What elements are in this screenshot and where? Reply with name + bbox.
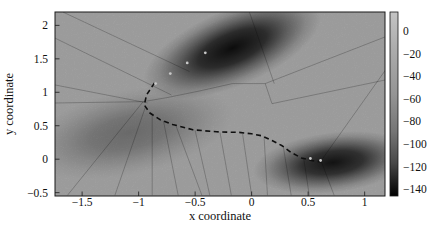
colorbar-tick-label: −100 [403, 138, 427, 150]
colorbar [390, 12, 398, 196]
colorbar-tick-label: −20 [403, 48, 421, 60]
x-tick-label: −0.5 [185, 196, 206, 208]
heatmap-chart: −1.5−1−0.500.51−0.500.511.52 x coordinat… [0, 0, 438, 233]
figure: −1.5−1−0.500.51−0.500.511.52 x coordinat… [0, 0, 438, 233]
y-tick-label: 1 [42, 86, 48, 98]
plot-content [18, 0, 416, 202]
colorbar-tick-label: −40 [403, 70, 421, 82]
x-tick-label: −1 [133, 196, 145, 208]
colorbar-tick-label: −120 [403, 161, 427, 173]
x-tick-label: 0.5 [301, 196, 316, 208]
y-tick-label: 0 [42, 153, 48, 165]
colorbar-tick-label: −140 [403, 183, 427, 195]
y-tick-label: 2 [42, 19, 48, 31]
x-tick-label: 1 [362, 196, 368, 208]
colorbar-tick-label: −80 [403, 115, 421, 127]
colorbar-tick-label: −60 [403, 93, 421, 105]
y-tick-label: −0.5 [27, 187, 48, 199]
y-tick-label: 0.5 [34, 120, 49, 132]
x-axis-label: x coordinate [189, 209, 252, 223]
noise-overlay [55, 12, 385, 196]
x-tick-label: −1.5 [72, 196, 93, 208]
colorbar-ticks: 0−20−40−60−80−100−120−140 [403, 25, 427, 195]
y-axis-label: y coordinate [2, 72, 16, 135]
x-tick-label: 0 [249, 196, 255, 208]
y-tick-label: 1.5 [34, 53, 49, 65]
colorbar-tick-label: 0 [403, 25, 409, 37]
